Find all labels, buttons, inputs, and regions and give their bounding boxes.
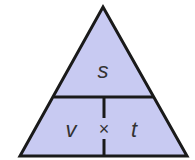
label-top: s bbox=[98, 58, 109, 83]
label-bottom-right: t bbox=[131, 117, 138, 142]
operator-multiply: × bbox=[99, 119, 110, 139]
formula-triangle: s v × t bbox=[0, 0, 195, 160]
